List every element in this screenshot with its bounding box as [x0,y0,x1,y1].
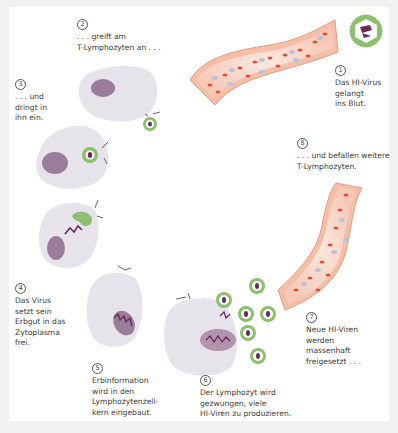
caption-step-6: 6 Der Lymphozyt wird gezwungen, viele HI… [200,375,291,420]
blood-vessel-top-icon [190,20,338,105]
caption-line: freigesetzt . . . [306,357,361,368]
caption-step-7: 7 Neue HI-Viren werden massenhaft freige… [306,312,361,367]
caption-line: . . . und befallen weitere [297,151,390,162]
step-number-5: 5 [92,363,103,374]
caption-line: Das Virus [15,296,66,307]
step-number-4: 4 [15,283,26,294]
caption-line: ihn ein. [15,113,47,124]
caption-line: HI-Viren zu produzieren. [200,409,291,420]
caption-step-8: 8 . . . und befallen weitere T-Lymphozyt… [297,138,390,172]
caption-line: ins Blut. [335,99,381,110]
diagram-panel: 1 Das HI-Virus gelangt ins Blut. 2 . . .… [9,7,389,421]
caption-line: . . . und [15,92,47,103]
t-lymphocyte-step2-icon [79,66,160,131]
step-number-6: 6 [200,375,211,386]
caption-line: setzt sein [15,307,66,318]
caption-line: Erbgut in das [15,317,66,328]
caption-line: T-Lymphozyten. [297,162,390,173]
caption-line: gelangt [335,89,381,100]
caption-line: kern eingebaut. [92,408,158,419]
caption-line: . . . greift am [77,32,161,43]
caption-line: Erbinformation [92,376,158,387]
caption-line: Der Lymphozyt wird [200,388,291,399]
caption-line: T-Lymphozyten an . . . [77,43,161,54]
blood-vessel-bottom-icon [278,183,362,310]
t-lymphocyte-step3-icon [36,126,108,189]
t-lymphocyte-step5-icon [87,266,143,347]
caption-step-3: 3 . . . und dringt in ihn ein. [15,79,47,124]
hiv-virus-icon [350,15,382,47]
caption-line: wird in den [92,387,158,398]
caption-line: massenhaft [306,346,361,357]
caption-line: Zytoplasma [15,328,66,339]
step-number-2: 2 [77,19,88,30]
caption-line: Das HI-Virus [335,78,381,89]
caption-step-2: 2 . . . greift am T-Lymphozyten an . . . [77,19,161,53]
caption-line: frei. [15,338,66,349]
t-lymphocyte-step4-icon [39,200,103,268]
step-number-7: 7 [306,312,317,323]
caption-step-1: 1 Das HI-Virus gelangt ins Blut. [335,65,381,110]
caption-line: Lymphozytenzell- [92,397,158,408]
caption-line: werden [306,336,361,347]
step-number-1: 1 [335,65,346,76]
caption-line: gezwungen, viele [200,399,291,410]
step-number-8: 8 [297,138,308,149]
caption-step-4: 4 Das Virus setzt sein Erbgut in das Zyt… [15,283,66,349]
caption-step-5: 5 Erbinformation wird in den Lymphozyten… [92,363,158,418]
caption-line: dringt in [15,103,47,114]
caption-line: Neue HI-Viren [306,325,361,336]
step-number-3: 3 [15,79,26,90]
